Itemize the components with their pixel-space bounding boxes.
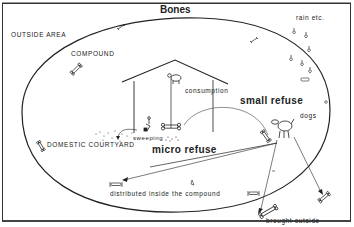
fragment-icon-right bbox=[325, 101, 328, 104]
label-consumption: consumption bbox=[185, 88, 228, 95]
goat-icon bbox=[168, 74, 181, 84]
label-sweeping: sweeping bbox=[133, 135, 163, 141]
label-distributed: distributed inside the compound bbox=[110, 191, 220, 198]
bone-icon-courtyard bbox=[36, 140, 45, 152]
label-compound: COMPOUND bbox=[71, 51, 114, 58]
bone-icon-compound-right bbox=[248, 191, 259, 196]
label-dogs: dogs bbox=[300, 113, 317, 120]
label-rain: rain etc. bbox=[296, 15, 325, 22]
house-roof bbox=[122, 60, 228, 84]
dog-icon bbox=[272, 119, 295, 138]
bone-icon-distributed bbox=[110, 182, 122, 187]
bone-icon-outside-right bbox=[317, 191, 330, 203]
label-small-refuse: small refuse bbox=[240, 96, 303, 106]
label-brought-outside: brought outside bbox=[266, 218, 320, 225]
label-outside-area: OUTSIDE AREA bbox=[11, 32, 66, 39]
sweeper-icon bbox=[144, 117, 150, 131]
compound-boundary bbox=[22, 18, 330, 212]
bone-icon-compound bbox=[70, 63, 83, 76]
label-domestic-courtyard: DOMESTIC COURTYARD bbox=[47, 142, 134, 149]
fragment-icon bbox=[191, 180, 194, 185]
rain-drops bbox=[290, 28, 312, 73]
bone-icon-rain bbox=[301, 78, 309, 81]
bone-icon-boundary-right bbox=[250, 37, 258, 43]
bone-icon-dog bbox=[260, 129, 272, 143]
label-micro-refuse: micro refuse bbox=[152, 145, 217, 155]
diagram-title: Bones bbox=[160, 5, 191, 15]
